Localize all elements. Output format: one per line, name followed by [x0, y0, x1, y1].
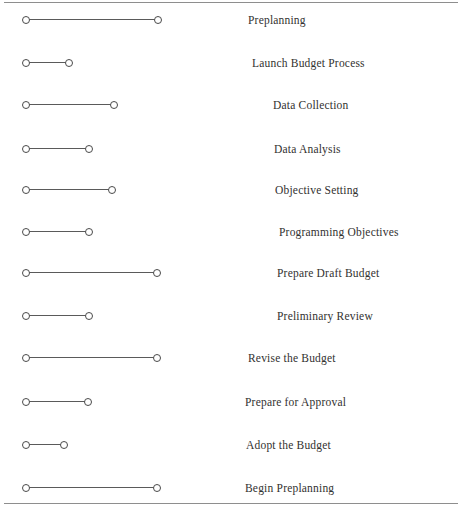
- task-bar-line: [26, 401, 88, 402]
- bottom-divider-rule: [4, 503, 458, 504]
- task-bar[interactable]: [26, 99, 114, 111]
- task-row[interactable]: Revise the Budget: [0, 352, 465, 394]
- task-row[interactable]: Data Collection: [0, 99, 465, 141]
- task-label: Launch Budget Process: [252, 57, 365, 69]
- task-bar-line: [26, 315, 89, 316]
- task-start-node-icon[interactable]: [22, 312, 30, 320]
- task-bar-line: [26, 62, 69, 63]
- task-start-node-icon[interactable]: [22, 186, 30, 194]
- task-bar[interactable]: [26, 310, 89, 322]
- task-bar-line: [26, 487, 157, 488]
- task-row[interactable]: Adopt the Budget: [0, 439, 465, 481]
- task-start-node-icon[interactable]: [22, 228, 30, 236]
- task-bar[interactable]: [26, 184, 112, 196]
- task-label: Prepare Draft Budget: [277, 267, 379, 279]
- task-bar[interactable]: [26, 143, 89, 155]
- task-start-node-icon[interactable]: [22, 354, 30, 362]
- task-bar-line: [26, 231, 89, 232]
- task-end-node-icon[interactable]: [154, 16, 162, 24]
- task-row[interactable]: Prepare for Approval: [0, 396, 465, 438]
- task-end-node-icon[interactable]: [85, 145, 93, 153]
- task-bar[interactable]: [26, 439, 64, 451]
- task-end-node-icon[interactable]: [153, 269, 161, 277]
- task-row[interactable]: Objective Setting: [0, 184, 465, 226]
- task-row[interactable]: Launch Budget Process: [0, 57, 465, 99]
- task-label: Revise the Budget: [248, 352, 336, 364]
- task-row[interactable]: Begin Preplanning: [0, 482, 465, 509]
- gantt-chart-area: Preplanning Launch Budget Process Data C…: [0, 0, 465, 509]
- task-end-node-icon[interactable]: [65, 59, 73, 67]
- task-label: Prepare for Approval: [245, 396, 346, 408]
- task-end-node-icon[interactable]: [85, 312, 93, 320]
- task-row[interactable]: Data Analysis: [0, 143, 465, 185]
- task-start-node-icon[interactable]: [22, 59, 30, 67]
- task-bar-line: [26, 104, 114, 105]
- task-start-node-icon[interactable]: [22, 484, 30, 492]
- task-label: Adopt the Budget: [246, 439, 331, 451]
- task-end-node-icon[interactable]: [110, 101, 118, 109]
- task-end-node-icon[interactable]: [60, 441, 68, 449]
- task-bar[interactable]: [26, 482, 157, 494]
- task-bar-line: [26, 148, 89, 149]
- task-label: Data Analysis: [274, 143, 341, 155]
- task-bar[interactable]: [26, 352, 157, 364]
- task-bar-line: [26, 357, 157, 358]
- task-start-node-icon[interactable]: [22, 16, 30, 24]
- task-label: Data Collection: [273, 99, 349, 111]
- task-start-node-icon[interactable]: [22, 269, 30, 277]
- task-end-node-icon[interactable]: [108, 186, 116, 194]
- task-bar-line: [26, 189, 112, 190]
- task-bar-line: [26, 19, 158, 20]
- task-bar[interactable]: [26, 226, 89, 238]
- task-start-node-icon[interactable]: [22, 145, 30, 153]
- task-start-node-icon[interactable]: [22, 441, 30, 449]
- task-start-node-icon[interactable]: [22, 398, 30, 406]
- task-label: Programming Objectives: [279, 226, 399, 238]
- task-start-node-icon[interactable]: [22, 101, 30, 109]
- task-bar-line: [26, 444, 64, 445]
- gantt-chart-page: Preplanning Launch Budget Process Data C…: [0, 0, 465, 509]
- task-end-node-icon[interactable]: [85, 228, 93, 236]
- task-label: Objective Setting: [275, 184, 359, 196]
- task-row[interactable]: Preliminary Review: [0, 310, 465, 352]
- task-label: Begin Preplanning: [245, 482, 334, 494]
- task-end-node-icon[interactable]: [84, 398, 92, 406]
- task-label: Preplanning: [248, 14, 306, 26]
- task-bar-line: [26, 272, 157, 273]
- task-end-node-icon[interactable]: [153, 484, 161, 492]
- task-row[interactable]: Preplanning: [0, 14, 465, 56]
- task-bar[interactable]: [26, 57, 69, 69]
- task-bar[interactable]: [26, 267, 157, 279]
- task-label: Preliminary Review: [277, 310, 373, 322]
- task-row[interactable]: Prepare Draft Budget: [0, 267, 465, 309]
- task-bar[interactable]: [26, 396, 88, 408]
- task-row[interactable]: Programming Objectives: [0, 226, 465, 268]
- task-end-node-icon[interactable]: [153, 354, 161, 362]
- task-bar[interactable]: [26, 14, 158, 26]
